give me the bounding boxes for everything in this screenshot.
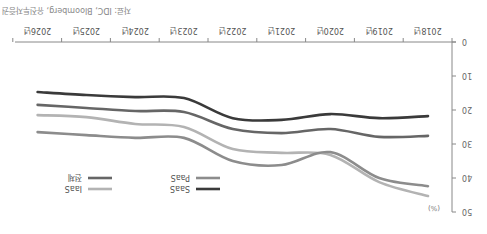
legend-label: 전체 [68,173,82,183]
legend: SaaSPaaS전체IaaS [65,173,220,193]
legend-label: PaaS [171,173,190,182]
x-axis: 2018년2019년2020년2021년2022년2023년2024년2025년… [13,26,456,42]
series-line-saas [38,92,428,121]
y-tick-label: 40 [462,173,472,182]
chart-figure: 01020304050 2018년2019년2020년2021년2022년202… [0,0,487,234]
x-tick-label: 2024년 [122,26,149,36]
legend-label: IaaS [65,184,82,193]
x-tick-label: 2026년 [24,26,51,36]
series-lines [38,92,428,196]
y-axis: 01020304050 [452,37,472,216]
y-tick-label: 50 [462,207,472,216]
y-tick-label: 30 [462,139,472,148]
y-tick-label: 0 [462,37,467,46]
legend-label: SaaS [170,184,190,193]
y-tick-label: 10 [462,71,472,80]
x-tick-label: 2019년 [366,26,393,36]
y-unit-label: (%) [428,204,440,212]
x-tick-label: 2021년 [268,26,295,36]
source-note: 자료: IDC, Bloomberg, 유진투자증권 [2,6,131,16]
line-chart: 01020304050 2018년2019년2020년2021년2022년202… [0,0,487,234]
y-tick-label: 20 [462,105,472,114]
x-tick-label: 2022년 [219,26,246,36]
x-tick-label: 2018년 [414,26,441,36]
series-line-iaas [38,115,428,196]
x-tick-label: 2023년 [170,26,197,36]
x-tick-label: 2025년 [73,26,100,36]
series-line-전체 [38,105,428,137]
x-tick-label: 2020년 [317,26,344,36]
